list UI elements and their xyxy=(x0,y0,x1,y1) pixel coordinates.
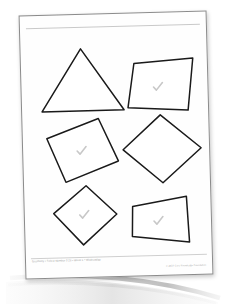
shape-rotated-rectangle xyxy=(46,118,119,183)
footer-left-text: Geometry • Select Number 3.25 • Week 1 •… xyxy=(32,258,101,263)
header-rule xyxy=(26,24,200,30)
worksheet-page: Geometry • Select Number 3.25 • Week 1 •… xyxy=(19,11,214,280)
footer-rule xyxy=(31,254,207,260)
shapes-grid xyxy=(20,30,212,253)
shape-rhombus xyxy=(53,185,118,246)
shapes-canvas xyxy=(20,30,212,253)
shape-diamond xyxy=(122,114,202,184)
shape-outline xyxy=(122,114,202,184)
shape-outline xyxy=(40,48,124,112)
worksheet-content: Geometry • Select Number 3.25 • Week 1 •… xyxy=(20,12,213,279)
shape-parallelogram xyxy=(127,58,194,112)
shape-trapezoid xyxy=(131,196,189,243)
shape-triangle xyxy=(40,48,124,112)
footer-right-text: © 2014 Core Knowledge Foundation xyxy=(166,264,206,268)
